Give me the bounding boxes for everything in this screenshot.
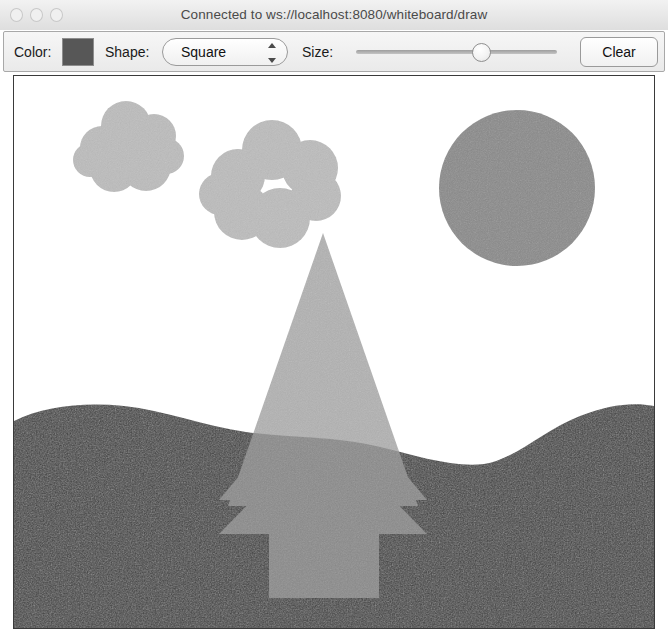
shape-select-value: Square xyxy=(181,44,226,60)
shape-label: Shape: xyxy=(105,44,149,60)
app-window: Connected to ws://localhost:8080/whitebo… xyxy=(0,0,668,643)
slider-track[interactable] xyxy=(356,50,557,54)
size-slider[interactable] xyxy=(356,44,557,60)
size-label: Size: xyxy=(302,44,333,60)
shape-select[interactable]: Square xyxy=(162,38,288,66)
chevron-down-icon xyxy=(268,58,276,63)
title-bar: Connected to ws://localhost:8080/whitebo… xyxy=(0,0,668,30)
window-title: Connected to ws://localhost:8080/whitebo… xyxy=(0,0,668,30)
chevron-updown-icon xyxy=(266,43,278,63)
sun-circle xyxy=(439,110,595,266)
whiteboard-canvas[interactable] xyxy=(13,75,655,629)
canvas-drawing xyxy=(14,76,654,628)
slider-thumb[interactable] xyxy=(472,43,491,62)
tree-trunk xyxy=(269,504,379,598)
color-label: Color: xyxy=(14,44,51,60)
color-swatch[interactable] xyxy=(62,38,94,66)
chevron-up-icon xyxy=(268,43,276,48)
clear-button[interactable]: Clear xyxy=(580,37,658,67)
toolbar: Color: Shape: Square Size: Clear xyxy=(3,31,665,72)
